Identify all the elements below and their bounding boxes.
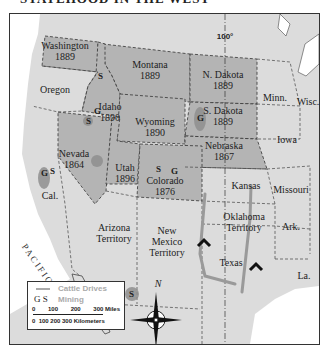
mining-marker-silver: S (86, 116, 91, 126)
region-new-mexico-territory: New Mexico Territory (142, 225, 192, 258)
map-legend: Cattle Drives G S Mining 0100200300 Mile… (27, 281, 125, 330)
state-wyoming: Wyoming1890 (135, 116, 174, 138)
mining-marker-gold: G (41, 168, 48, 178)
cattle-drive-line-icon (36, 288, 50, 290)
state-south-dakota: S. Dakota1889 (203, 105, 242, 127)
region-missouri: Missouri (273, 184, 309, 195)
region-california: Cal. (42, 190, 58, 201)
region-texas: Texas (219, 257, 242, 268)
legend-mining-label: Mining (58, 295, 84, 304)
mining-marker-silver: S (129, 289, 134, 299)
mining-marker-gold: G (197, 113, 204, 123)
mining-marker-silver: S (50, 166, 55, 176)
state-colorado: Colorado1876 (146, 175, 183, 197)
state-washington: Washington1889 (41, 40, 89, 62)
map-frame: 100° Washington1889 Montana1889 N. Dakot… (9, 13, 320, 345)
state-nevada: Nevada1864 (59, 148, 90, 170)
mining-marker-silver: S (98, 71, 103, 81)
scale-bar (33, 314, 103, 315)
region-arkansas: Ark. (282, 221, 300, 232)
state-montana: Montana1889 (132, 59, 168, 81)
region-louisiana: La. (297, 270, 310, 281)
legend-cattle-label: Cattle Drives (58, 284, 107, 293)
mining-marker-gold: G (171, 166, 178, 176)
state-nebraska: Nebraska1867 (205, 140, 243, 162)
meridian-label: 100° (217, 31, 234, 42)
region-arizona-territory: Arizona Territory (84, 222, 144, 244)
region-minnesota: Minn. (263, 92, 287, 103)
mining-marker-gold: G (94, 106, 101, 116)
mining-marker-silver: S (156, 164, 161, 174)
region-iowa: Iowa (277, 134, 297, 145)
compass-north-label: N (155, 278, 162, 289)
scale-miles: 0100200300 Miles (32, 306, 120, 312)
region-kansas: Kansas (232, 180, 261, 191)
region-wisconsin: Wisc. (297, 96, 320, 107)
region-oregon: Oregon (40, 84, 70, 95)
state-utah: Utah1896 (115, 162, 135, 184)
region-oklahoma-territory: Oklahoma Territory (214, 211, 274, 233)
map-title: STATEHOOD IN THE WEST (20, 0, 210, 7)
legend-mining-symbols: G S (34, 294, 48, 304)
state-north-dakota: N. Dakota1889 (202, 69, 243, 91)
state-idaho: Idaho1890 (99, 101, 122, 123)
scale-kilometers: 0 100 200 300 Kilometers (32, 318, 105, 324)
